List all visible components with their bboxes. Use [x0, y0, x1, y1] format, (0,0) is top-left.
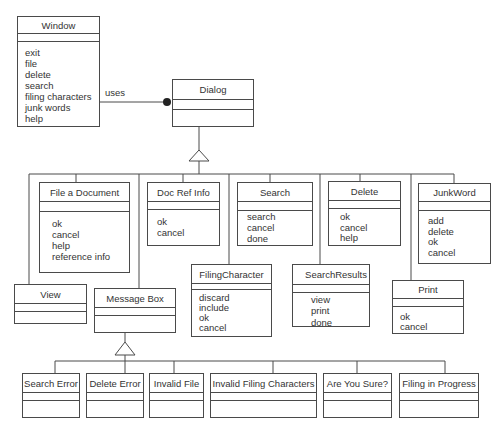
association-dot-icon [163, 98, 171, 106]
class-search-error: Search Error [22, 373, 80, 418]
attributes-compartment [329, 201, 400, 209]
attributes-compartment [148, 202, 219, 210]
class-name: Window [18, 17, 99, 34]
operation: print [311, 305, 369, 316]
attributes-compartment [324, 393, 391, 401]
operation: cancel [199, 323, 271, 333]
attributes-compartment [238, 202, 312, 211]
class-name: Print [393, 281, 463, 299]
operations-compartment: ok cancel help [329, 209, 400, 244]
class-name: Filing in Progress [400, 374, 478, 393]
class-message-box: Message Box [94, 288, 176, 333]
operations-compartment: add delete ok cancel [419, 211, 490, 259]
operation: view [311, 294, 369, 305]
attributes-compartment [393, 299, 463, 307]
association-label: uses [105, 87, 125, 98]
operations-compartment: discard include ok cancel [192, 290, 271, 333]
class-name: Search Error [23, 374, 79, 393]
operation: delete [25, 69, 99, 80]
attributes-compartment [400, 393, 478, 401]
attributes-compartment [419, 202, 490, 211]
class-print: Print ok cancel [392, 280, 464, 334]
operation: exit [25, 47, 99, 58]
operation: ok [157, 216, 219, 227]
class-name: Invalid Filing Characters [211, 374, 316, 393]
class-delete-error: Delete Error [86, 373, 144, 418]
class-name: Delete Error [87, 374, 143, 393]
class-invalid-filing-characters: Invalid Filing Characters [210, 373, 317, 418]
operations-compartment: exit file delete search filing character… [18, 42, 99, 124]
class-name: View [15, 285, 86, 304]
class-name: Are You Sure? [324, 374, 391, 393]
operations-compartment: ok cancel help reference info [40, 212, 129, 262]
operations-compartment: ok cancel [148, 210, 219, 238]
attributes-compartment [211, 393, 316, 401]
operation: done [311, 317, 369, 328]
attributes-compartment [15, 304, 86, 312]
operation: help [25, 113, 99, 124]
operation: cancel [247, 222, 312, 233]
uml-class-diagram: uses Window exit file delete search fili… [0, 0, 504, 432]
class-search: Search search cancel done [237, 182, 313, 246]
generalization-arrow-icon [115, 342, 135, 355]
operation: search [25, 80, 99, 91]
class-junkword: JunkWord add delete ok cancel [418, 183, 491, 264]
attributes-compartment [87, 393, 143, 401]
operations-compartment: search cancel done [238, 211, 312, 244]
class-filing-in-progress: Filing in Progress [399, 373, 479, 418]
operation: cancel [428, 248, 490, 259]
class-name: Doc Ref Info [148, 183, 219, 202]
class-delete: Delete ok cancel help [328, 181, 401, 246]
class-name: Search [238, 183, 312, 202]
operation: cancel [52, 229, 129, 240]
class-filing-character: FilingCharacter discard include ok cance… [191, 264, 272, 337]
operations-compartment: ok cancel [393, 307, 463, 332]
operation: file [25, 58, 99, 69]
class-name: Delete [329, 182, 400, 201]
class-invalid-file: Invalid File [149, 373, 204, 418]
attributes-compartment [293, 285, 369, 293]
class-view: View [14, 284, 87, 324]
attributes-compartment [150, 393, 203, 401]
class-name: Dialog [173, 80, 253, 100]
operations-compartment: view print done [293, 293, 369, 328]
class-search-results: SearchResults view print done [292, 264, 370, 327]
class-are-you-sure: Are You Sure? [323, 373, 392, 418]
operation: done [247, 233, 312, 244]
class-name: File a Document [40, 183, 129, 202]
class-window: Window exit file delete search filing ch… [17, 16, 100, 127]
class-name: Invalid File [150, 374, 203, 393]
operation: cancel [400, 322, 463, 332]
attributes-compartment [18, 34, 99, 42]
attributes-compartment [23, 393, 79, 401]
operation: filing characters [25, 91, 99, 102]
operation: search [247, 211, 312, 222]
class-doc-ref-info: Doc Ref Info ok cancel [147, 182, 220, 246]
class-name: FilingCharacter [192, 265, 271, 284]
operation: cancel [157, 227, 219, 238]
class-dialog: Dialog [172, 79, 254, 127]
class-name: Message Box [95, 289, 175, 308]
operation: help [340, 233, 400, 244]
class-name: JunkWord [419, 184, 490, 202]
attributes-compartment [95, 308, 175, 316]
operation: reference info [52, 251, 129, 262]
attributes-compartment [173, 100, 253, 110]
operation: help [52, 240, 129, 251]
generalization-arrow-icon [189, 150, 209, 161]
operation: ok [52, 218, 129, 229]
class-name: SearchResults [293, 265, 369, 285]
operation: ok [340, 212, 400, 223]
operation: junk words [25, 102, 99, 113]
class-file-a-document: File a Document ok cancel help reference… [39, 182, 130, 273]
operation: include [199, 303, 271, 313]
attributes-compartment [40, 202, 129, 212]
